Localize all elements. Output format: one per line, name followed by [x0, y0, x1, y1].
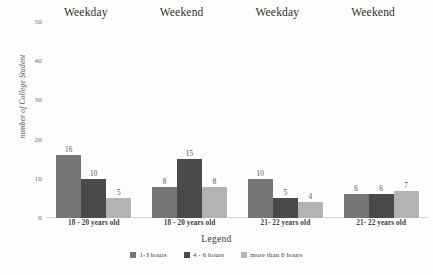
category-label-row: 18 - 20 years old18 - 20 years old21- 22… — [46, 219, 429, 233]
bar — [248, 179, 273, 218]
bar — [56, 155, 81, 218]
legend-item[interactable]: more than 6 hours — [241, 251, 302, 259]
bar-value-label: 4 — [298, 193, 323, 201]
group-header: Weekend — [336, 6, 411, 18]
bar — [394, 191, 419, 218]
bar — [369, 194, 394, 218]
bar-value-label: 5 — [106, 189, 131, 197]
legend-item[interactable]: 1-3 hours — [130, 251, 167, 259]
legend-swatch-icon — [184, 252, 190, 258]
bar-value-label: 8 — [152, 178, 177, 186]
bar — [202, 187, 227, 218]
y-axis-tick: 30 — [34, 96, 42, 104]
category-label: 21- 22 years old — [238, 219, 334, 227]
y-axis-tick: 0 — [38, 214, 42, 222]
category-label: 21- 22 years old — [333, 219, 429, 227]
bar-group: 1054 — [248, 22, 323, 218]
chart-legend: 1-3 hours4 - 6 hoursmore than 6 hours — [0, 251, 433, 259]
bar-chart: WeekdayWeekendWeekdayWeekend number of C… — [0, 0, 433, 275]
category-label: 18 - 20 years old — [142, 219, 238, 227]
legend-label: more than 6 hours — [250, 251, 302, 259]
category-label: 18 - 20 years old — [46, 219, 142, 227]
bar — [344, 194, 369, 218]
y-axis-ticks: 01020304050 — [22, 22, 44, 218]
bar — [152, 187, 177, 218]
bar-value-label: 6 — [344, 185, 369, 193]
bar-value-label: 7 — [394, 182, 419, 190]
legend-label: 4 - 6 hours — [193, 251, 224, 259]
bar — [177, 159, 202, 218]
group-header: Weekday — [48, 6, 123, 18]
bar — [81, 179, 106, 218]
x-axis-title: Legend — [0, 234, 433, 244]
bar-value-label: 15 — [177, 150, 202, 158]
group-header: Weekday — [240, 6, 315, 18]
y-axis-tick: 20 — [34, 136, 42, 144]
bar — [106, 198, 131, 218]
bar-group: 8158 — [152, 22, 227, 218]
legend-swatch-icon — [130, 252, 136, 258]
bar-value-label: 6 — [369, 185, 394, 193]
y-axis-tick: 40 — [34, 57, 42, 65]
y-axis-tick: 50 — [34, 18, 42, 26]
legend-item[interactable]: 4 - 6 hours — [184, 251, 224, 259]
bar-value-label: 8 — [202, 178, 227, 186]
plot-area: 1610581581054667 — [46, 22, 429, 218]
group-header: Weekend — [144, 6, 219, 18]
legend-label: 1-3 hours — [139, 251, 167, 259]
legend-swatch-icon — [241, 252, 247, 258]
bar-value-label: 16 — [56, 146, 81, 154]
bar-value-label: 10 — [248, 170, 273, 178]
bar-value-label: 5 — [273, 189, 298, 197]
y-axis-tick: 10 — [34, 175, 42, 183]
bar-group: 667 — [344, 22, 419, 218]
bar — [273, 198, 298, 218]
bar — [298, 202, 323, 218]
bar-value-label: 10 — [81, 170, 106, 178]
bar-group: 16105 — [56, 22, 131, 218]
